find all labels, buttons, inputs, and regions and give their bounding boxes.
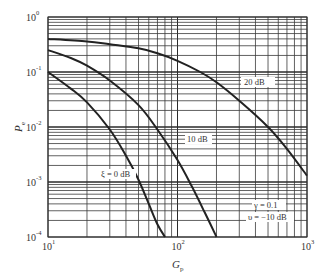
- x-tick-label: 103: [301, 238, 314, 252]
- svg-text:-4: -4: [36, 229, 42, 236]
- svg-text:10: 10: [26, 122, 36, 133]
- svg-text:G: G: [172, 258, 180, 270]
- svg-text:10: 10: [26, 232, 36, 243]
- svg-text:10: 10: [26, 67, 36, 78]
- y-axis-label: P e: [12, 122, 27, 133]
- svg-text:1: 1: [52, 238, 55, 245]
- curve-0: [48, 72, 165, 237]
- y-tick-label: 10-3: [26, 174, 41, 188]
- y-tick-label: 10-4: [26, 229, 42, 243]
- svg-text:-2: -2: [36, 119, 41, 126]
- svg-text:10 dB: 10 dB: [187, 134, 208, 144]
- svg-text:γ = 0.1: γ = 0.1: [253, 200, 277, 210]
- svg-text:10: 10: [42, 241, 52, 252]
- svg-text:-3: -3: [36, 174, 41, 181]
- svg-text:ξ = 0 dB: ξ = 0 dB: [101, 169, 130, 179]
- svg-text:υ = −10 dB: υ = −10 dB: [248, 212, 287, 222]
- annotation-10db: 10 dB: [185, 134, 212, 144]
- y-tick-label: 10-2: [26, 119, 41, 133]
- svg-text:P: P: [12, 125, 24, 133]
- svg-text:3: 3: [311, 238, 314, 245]
- svg-text:-1: -1: [36, 64, 41, 71]
- annotation-20db: 20 dB: [241, 77, 275, 87]
- y-tick-label: 100: [26, 9, 39, 23]
- svg-text:10: 10: [301, 241, 311, 252]
- svg-text:10: 10: [26, 12, 36, 23]
- svg-text:0: 0: [36, 9, 39, 16]
- annotation-0db: ξ = 0 dB: [100, 169, 136, 179]
- chart: 10110210310010-110-210-310-4 20 dB 10 dB…: [0, 0, 328, 280]
- y-tick-label: 10-1: [26, 64, 41, 78]
- svg-text:2: 2: [182, 238, 185, 245]
- x-tick-label: 102: [172, 238, 185, 252]
- svg-text:e: e: [19, 122, 27, 125]
- svg-text:10: 10: [172, 241, 182, 252]
- x-axis-label: G p: [172, 258, 184, 273]
- svg-text:p: p: [180, 265, 184, 273]
- svg-text:10: 10: [26, 177, 36, 188]
- svg-text:20 dB: 20 dB: [244, 77, 265, 87]
- x-tick-label: 101: [42, 238, 55, 252]
